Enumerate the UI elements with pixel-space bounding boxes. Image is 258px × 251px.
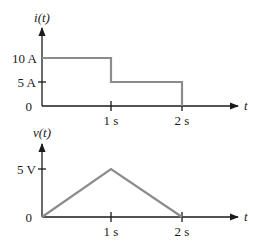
voltage-y-axis-label: v(t) (33, 125, 51, 140)
voltage-x-axis-label: t (244, 209, 248, 224)
current-origin-label: 0 (26, 99, 33, 114)
current-tick-5A: 5 A (18, 75, 37, 90)
current-x-axis-label: t (244, 98, 248, 113)
waveform-diagram: i(t) t 10 A 5 A 0 1 s 2 s v(t) t 5 V 0 1… (0, 0, 258, 251)
current-tick-10A: 10 A (12, 51, 38, 66)
voltage-tick-1s: 1 s (104, 224, 119, 239)
voltage-tick-2s: 2 s (175, 224, 190, 239)
current-plot: i(t) t 10 A 5 A 0 1 s 2 s (12, 10, 248, 128)
voltage-waveform (42, 169, 182, 217)
voltage-plot: v(t) t 5 V 0 1 s 2 s (17, 125, 248, 239)
voltage-origin-label: 0 (26, 210, 33, 225)
voltage-tick-5V: 5 V (17, 162, 37, 177)
current-y-axis-label: i(t) (34, 10, 50, 25)
current-waveform (42, 58, 182, 106)
current-tick-2s: 2 s (175, 113, 190, 128)
current-tick-1s: 1 s (104, 113, 119, 128)
